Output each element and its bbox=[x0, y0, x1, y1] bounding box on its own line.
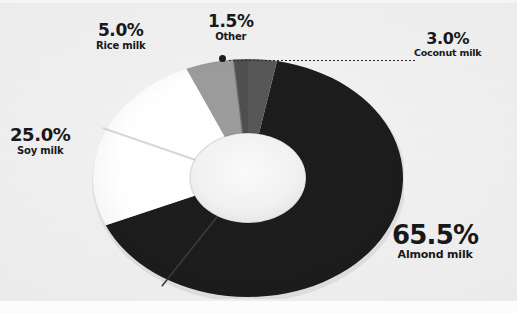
label-coconut-milk-name: Coconut milk bbox=[414, 48, 481, 58]
coconut-leader-dot bbox=[219, 55, 226, 62]
label-rice-milk-name: Rice milk bbox=[96, 41, 145, 51]
label-other: 1.5% Other bbox=[208, 13, 254, 42]
donut-svg bbox=[92, 54, 404, 299]
label-almond-milk-name: Almond milk bbox=[392, 249, 478, 260]
label-rice-milk-percent: 5.0% bbox=[96, 22, 145, 40]
chart-page: 5.0% Rice milk 1.5% Other 3.0% Coconut m… bbox=[0, 0, 517, 314]
top-edge-strip bbox=[0, 0, 517, 3]
label-soy-milk-name: Soy milk bbox=[10, 146, 70, 156]
label-other-percent: 1.5% bbox=[208, 13, 254, 31]
label-rice-milk: 5.0% Rice milk bbox=[96, 22, 145, 51]
label-almond-milk: 65.5% Almond milk bbox=[392, 222, 478, 260]
label-coconut-milk: 3.0% Coconut milk bbox=[414, 31, 481, 58]
label-soy-milk: 25.0% Soy milk bbox=[10, 126, 70, 156]
bottom-edge-strip bbox=[0, 301, 517, 314]
coconut-leader-line bbox=[229, 59, 415, 61]
label-almond-milk-percent: 65.5% bbox=[392, 222, 478, 249]
label-soy-milk-percent: 25.0% bbox=[10, 126, 70, 145]
donut-chart bbox=[92, 54, 404, 299]
label-coconut-milk-percent: 3.0% bbox=[414, 31, 481, 47]
label-other-name: Other bbox=[208, 32, 254, 42]
